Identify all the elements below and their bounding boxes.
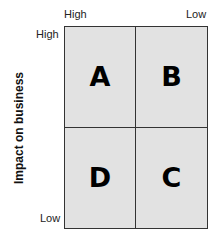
quadrant-c: C bbox=[136, 128, 207, 229]
x-axis-low-label: Low bbox=[186, 8, 206, 20]
quadrant-b: B bbox=[136, 27, 207, 128]
y-axis-low-label: Low bbox=[40, 212, 60, 224]
y-axis-title: Impact on business bbox=[12, 72, 26, 184]
quadrant-d: D bbox=[65, 128, 136, 229]
x-axis-high-label: High bbox=[64, 8, 87, 20]
quadrant-a: A bbox=[65, 27, 136, 128]
quadrant-matrix: A B D C bbox=[64, 26, 208, 229]
y-axis-high-label: High bbox=[36, 28, 59, 40]
